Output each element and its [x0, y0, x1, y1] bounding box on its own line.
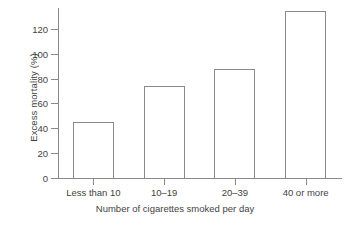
bar: [144, 86, 185, 178]
y-tick-label: 100: [8, 48, 48, 59]
x-tick: [306, 179, 307, 185]
x-tick: [235, 179, 236, 185]
y-tick: [51, 153, 58, 154]
y-tick: [51, 54, 58, 55]
y-tick-label: 120: [8, 23, 48, 34]
bar: [73, 122, 114, 178]
y-tick-label: 60: [8, 98, 48, 109]
bar: [285, 11, 326, 178]
y-tick-label: 40: [8, 123, 48, 134]
x-axis-title: Number of cigarettes smoked per day: [0, 203, 350, 214]
y-tick: [51, 128, 58, 129]
y-tick: [51, 79, 58, 80]
y-tick: [51, 29, 58, 30]
bar-chart: Excess mortality (%) 020406080100120 Les…: [0, 0, 350, 227]
x-tick: [164, 179, 165, 185]
y-tick-label: 0: [8, 173, 48, 184]
bar: [214, 69, 255, 178]
x-tick-label: 10–19: [151, 187, 177, 198]
y-tick: [51, 178, 58, 179]
x-tick-label: 40 or more: [283, 187, 329, 198]
x-tick-label: Less than 10: [66, 187, 120, 198]
y-tick-label: 80: [8, 73, 48, 84]
x-axis-line: [58, 178, 342, 179]
y-tick-label: 20: [8, 148, 48, 159]
x-tick: [93, 179, 94, 185]
y-axis-line: [58, 8, 59, 179]
y-tick: [51, 103, 58, 104]
x-tick-label: 20–39: [222, 187, 248, 198]
